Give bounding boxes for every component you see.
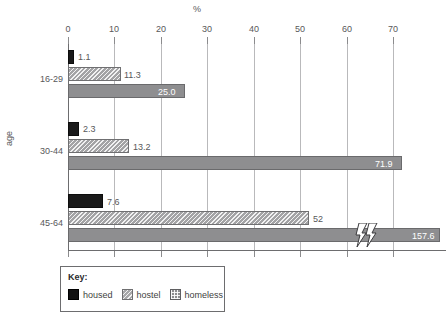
gridline-60: [347, 44, 348, 250]
y-axis-title: age: [4, 131, 14, 146]
x-bottom-tick-70: [393, 251, 394, 257]
x-tick-label-40: 40: [249, 24, 259, 34]
x-bottom-tick-20: [161, 251, 162, 257]
x-axis-unit-text: %: [193, 4, 201, 14]
x-tick-mark-30: [207, 37, 208, 44]
legend-swatch-housed-icon: [68, 289, 79, 300]
bar-housed-30-44: [68, 122, 79, 136]
gridline-70: [393, 44, 394, 250]
x-bottom-tick-10: [114, 251, 115, 257]
bar-value-hostel-30-44: 13.2: [133, 142, 151, 152]
bar-value-homeless-45-64: 157.6: [412, 231, 435, 241]
legend-items: housed hostel homeless: [68, 289, 223, 300]
legend-swatch-homeless-icon: [170, 289, 181, 300]
x-bottom-tick-30: [207, 251, 208, 257]
bar-value-housed-45-64: 7.6: [107, 197, 120, 207]
bar-value-housed-30-44: 2.3: [83, 124, 96, 134]
x-tick-label-70: 70: [388, 24, 398, 34]
x-tick-label-0: 0: [65, 24, 70, 34]
x-bottom-tick-0: [68, 251, 69, 257]
legend: Key: housed hostel homeless: [60, 266, 225, 312]
legend-item-homeless[interactable]: homeless: [170, 289, 224, 300]
legend-label-housed: housed: [83, 290, 113, 300]
legend-title: Key:: [68, 272, 88, 282]
x-tick-mark-10: [114, 37, 115, 44]
legend-item-hostel[interactable]: hostel: [122, 289, 161, 300]
x-tick-label-20: 20: [156, 24, 166, 34]
x-bottom-tick-50: [300, 251, 301, 257]
x-tick-mark-50: [300, 37, 301, 44]
x-tick-label-10: 10: [109, 24, 119, 34]
bar-hostel-45-64: [68, 211, 309, 225]
bar-value-housed-16-29: 1.1: [78, 52, 91, 62]
x-axis-line: [68, 250, 446, 251]
x-bottom-tick-60: [347, 251, 348, 257]
x-axis-unit-label: %: [0, 4, 446, 14]
x-tick-label-30: 30: [202, 24, 212, 34]
category-label-45-64: 45-64: [17, 218, 63, 228]
x-bottom-tick-40: [254, 251, 255, 257]
x-tick-mark-20: [161, 37, 162, 44]
x-tick-mark-70: [393, 37, 394, 44]
category-label-30-44: 30-44: [17, 146, 63, 156]
bar-housed-16-29: [68, 50, 74, 64]
bar-value-hostel-45-64: 52: [313, 214, 323, 224]
legend-label-homeless: homeless: [185, 290, 224, 300]
axis-break-icon: [355, 223, 381, 247]
legend-item-housed[interactable]: housed: [68, 289, 113, 300]
bar-homeless-30-44: [68, 156, 402, 170]
x-tick-label-60: 60: [342, 24, 352, 34]
legend-label-hostel: hostel: [137, 290, 161, 300]
bar-value-homeless-16-29: 25.0: [158, 87, 176, 97]
x-tick-mark-60: [347, 37, 348, 44]
bar-value-homeless-30-44: 71.9: [375, 159, 393, 169]
x-tick-label-50: 50: [295, 24, 305, 34]
bar-value-hostel-16-29: 11.3: [124, 70, 141, 80]
bar-hostel-16-29: [68, 67, 121, 81]
category-label-16-29: 16-29: [17, 74, 63, 84]
legend-swatch-hostel-icon: [122, 289, 133, 300]
bar-housed-45-64: [68, 194, 103, 208]
bar-chart: % age 0 10 20 30 40 50 60 70 16-29 1.1 1…: [0, 0, 446, 323]
bar-homeless-45-64: [68, 228, 440, 242]
x-tick-mark-40: [254, 37, 255, 44]
x-tick-mark-0: [68, 37, 69, 44]
bar-hostel-30-44: [68, 139, 129, 153]
